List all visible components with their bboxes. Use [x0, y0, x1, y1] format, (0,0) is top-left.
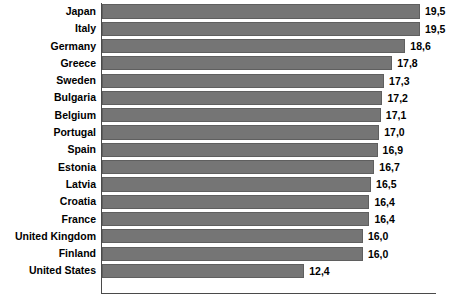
bar-row: Bulgaria17,2: [0, 89, 454, 106]
bar-value-label: 16,9: [383, 143, 403, 157]
bar: [102, 4, 420, 18]
bar-value-label: 17,0: [384, 125, 404, 139]
bar-and-value: 16,7: [102, 160, 400, 174]
category-label: Germany: [50, 38, 96, 55]
bar: [102, 160, 374, 174]
category-label: France: [62, 211, 96, 228]
bar-row: United States12,4: [0, 262, 454, 279]
bar-row: Sweden17,3: [0, 72, 454, 89]
bar-row: Estonia16,7: [0, 159, 454, 176]
bar-and-value: 19,5: [102, 4, 445, 18]
bar: [102, 74, 384, 88]
category-label: Belgium: [55, 107, 96, 124]
bar-value-label: 12,4: [309, 264, 329, 278]
bar: [102, 56, 392, 70]
bar-value-label: 16,4: [374, 195, 394, 209]
category-label: Sweden: [56, 72, 96, 89]
bar: [102, 39, 405, 53]
bar: [102, 195, 369, 209]
category-label: Latvia: [66, 176, 96, 193]
bar-row: Portugal17,0: [0, 124, 454, 141]
category-label: Croatia: [60, 193, 96, 210]
category-label: Japan: [66, 3, 96, 20]
bar-value-label: 17,3: [389, 74, 409, 88]
bar-row: Belgium17,1: [0, 107, 454, 124]
bar-value-label: 16,7: [379, 160, 399, 174]
bar-and-value: 17,8: [102, 56, 418, 70]
category-label: Finland: [59, 245, 96, 262]
bar-value-label: 18,6: [410, 39, 430, 53]
bar: [102, 247, 363, 261]
bar-row: United Kingdom16,0: [0, 228, 454, 245]
bar-and-value: 17,1: [102, 108, 406, 122]
bar: [102, 177, 371, 191]
bar-row: Germany18,6: [0, 38, 454, 55]
bar-value-label: 16,4: [374, 212, 394, 226]
category-label: Spain: [67, 141, 96, 158]
category-label: United States: [29, 262, 96, 279]
bar: [102, 108, 381, 122]
bar: [102, 212, 369, 226]
bar: [102, 125, 379, 139]
bar-and-value: 12,4: [102, 264, 330, 278]
bar-row: Latvia16,5: [0, 176, 454, 193]
bar: [102, 264, 304, 278]
bar: [102, 143, 378, 157]
bar-and-value: 16,0: [102, 229, 388, 243]
category-label: Bulgaria: [54, 89, 96, 106]
bar-row: Spain16,9: [0, 141, 454, 158]
bar-row: Japan19,5: [0, 3, 454, 20]
category-label: Italy: [75, 20, 96, 37]
bar: [102, 229, 363, 243]
bar-and-value: 17,3: [102, 74, 410, 88]
category-label: Greece: [60, 55, 96, 72]
chart-baseline: [101, 293, 436, 294]
bar-row: Finland16,0: [0, 245, 454, 262]
bar-row: Greece17,8: [0, 55, 454, 72]
bar: [102, 22, 420, 36]
bar-value-label: 16,0: [368, 229, 388, 243]
bar-value-label: 17,8: [397, 56, 417, 70]
bar-and-value: 19,5: [102, 22, 445, 36]
bar-and-value: 17,0: [102, 125, 405, 139]
bar-and-value: 16,5: [102, 177, 397, 191]
bar-value-label: 16,5: [376, 177, 396, 191]
bar-chart: Japan19,5Italy19,5Germany18,6Greece17,8S…: [0, 0, 454, 300]
bar-value-label: 17,1: [386, 108, 406, 122]
bar-row: Croatia16,4: [0, 193, 454, 210]
bar-and-value: 18,6: [102, 39, 431, 53]
bar-and-value: 17,2: [102, 91, 408, 105]
bar-value-label: 17,2: [387, 91, 407, 105]
bar-value-label: 19,5: [425, 4, 445, 18]
category-label: United Kingdom: [15, 228, 96, 245]
bar-and-value: 16,4: [102, 195, 395, 209]
bar-row: France16,4: [0, 211, 454, 228]
category-label: Estonia: [58, 159, 96, 176]
bar-value-label: 19,5: [425, 22, 445, 36]
bar-rows-container: Japan19,5Italy19,5Germany18,6Greece17,8S…: [0, 3, 454, 280]
bar-and-value: 16,9: [102, 143, 403, 157]
bar-and-value: 16,4: [102, 212, 395, 226]
bar-value-label: 16,0: [368, 247, 388, 261]
bar-row: Italy19,5: [0, 20, 454, 37]
category-label: Portugal: [53, 124, 96, 141]
bar: [102, 91, 382, 105]
bar-and-value: 16,0: [102, 247, 388, 261]
